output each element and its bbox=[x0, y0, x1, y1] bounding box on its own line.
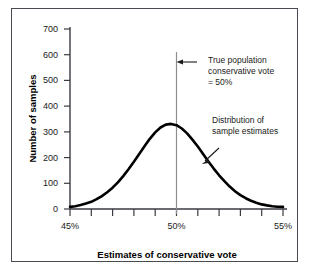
x-tick-label-50: 50% bbox=[160, 222, 194, 231]
figure-container: 700 600 500 400 300 200 100 0 45% 50% 55… bbox=[0, 0, 309, 276]
annotation-distribution-line2: sample estimates bbox=[212, 126, 278, 137]
x-axis-title: Estimates of conservative vote bbox=[42, 249, 292, 260]
chart-frame: 700 600 500 400 300 200 100 0 45% 50% 55… bbox=[11, 8, 298, 262]
y-tick-label-700: 700 bbox=[32, 25, 58, 34]
annotation-distribution-line1: Distribution of bbox=[212, 115, 278, 126]
annotation-true-population-line3: = 50% bbox=[208, 77, 274, 88]
annotation-true-population: True population conservative vote = 50% bbox=[208, 55, 274, 89]
x-tick-label-45: 45% bbox=[53, 222, 87, 231]
y-tick-label-100: 100 bbox=[32, 179, 58, 188]
y-axis-ticks bbox=[64, 29, 70, 209]
x-tick-label-55: 55% bbox=[266, 222, 300, 231]
y-tick-label-0: 0 bbox=[32, 205, 58, 214]
y-axis-title: Number of samples bbox=[27, 64, 38, 174]
y-tick-label-600: 600 bbox=[32, 51, 58, 60]
annotation-true-population-line2: conservative vote bbox=[208, 66, 274, 77]
annotation-true-population-line1: True population bbox=[208, 55, 274, 66]
true-population-arrow bbox=[177, 59, 198, 64]
annotation-distribution: Distribution of sample estimates bbox=[212, 115, 278, 137]
